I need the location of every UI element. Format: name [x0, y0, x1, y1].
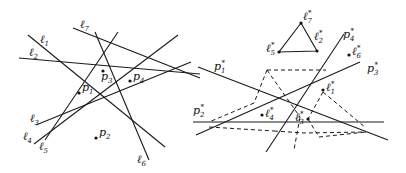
label-l2: ℓ2	[29, 46, 39, 61]
duality-diagram: ℓ1ℓ2ℓ3ℓ4ℓ5ℓ6ℓ7p1p2p3p4p1*p2*p3*p4*ℓ1*ℓ3*…	[0, 0, 406, 173]
label-p2: p2	[99, 126, 111, 141]
dual-line-p1	[198, 67, 388, 140]
label-l3: ℓ3	[30, 112, 40, 127]
label-dual-p1: p1*	[214, 59, 226, 75]
label-dual-l7: ℓ7*	[303, 9, 313, 25]
dual-point-l6	[347, 53, 350, 56]
triangle-vertex-l5	[277, 50, 280, 53]
line-l1	[28, 35, 165, 147]
label-dual-l3: ℓ3*	[295, 110, 305, 126]
label-p3: p3	[101, 70, 113, 85]
label-dual-l4: ℓ4*	[265, 106, 274, 122]
point-p4	[128, 79, 131, 82]
diagram-svg: ℓ1ℓ2ℓ3ℓ4ℓ5ℓ6ℓ7p1p2p3p4p1*p2*p3*p4*ℓ1*ℓ3*…	[0, 0, 406, 173]
label-dual-l2: ℓ2*	[314, 29, 324, 45]
label-l1: ℓ1	[40, 33, 49, 48]
triangle	[279, 23, 317, 52]
label-p1: p1	[82, 81, 94, 96]
label-l6: ℓ6	[137, 153, 147, 168]
label-dual-l6: ℓ6*	[352, 44, 362, 60]
label-l5: ℓ5	[39, 140, 49, 155]
label-dual-p2: p2*	[193, 103, 205, 119]
dashed-path	[274, 131, 366, 133]
dashed-path	[254, 70, 267, 103]
dashed-path	[308, 92, 323, 119]
line-l3	[36, 62, 191, 125]
dual-arrangement	[193, 21, 388, 152]
label-dual-l5: ℓ5*	[266, 41, 276, 57]
dashed-path	[323, 92, 366, 128]
dual-point-l1	[321, 88, 324, 91]
dual-point-l4	[260, 113, 263, 116]
dashed-path	[209, 127, 274, 131]
label-p4: p4	[133, 70, 145, 85]
dual-point-l3	[306, 117, 309, 120]
label-dual-p4: p4*	[343, 27, 355, 43]
triangle-vertex-l2	[315, 49, 318, 52]
label-l7: ℓ7	[80, 18, 90, 33]
point-p1	[77, 91, 80, 94]
point-p2	[94, 136, 97, 139]
label-dual-l1: ℓ1*	[326, 80, 335, 96]
label-dual-p3: p3*	[367, 61, 379, 77]
label-l4: ℓ4	[23, 130, 32, 145]
